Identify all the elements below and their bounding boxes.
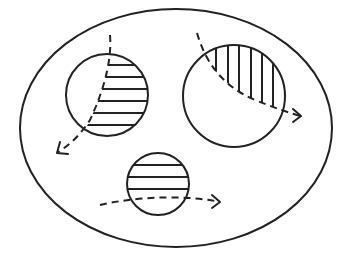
left-circle-group (57, 35, 150, 154)
left-arrowhead-icon (57, 142, 68, 154)
set-diagram (0, 0, 342, 255)
right-circle (183, 45, 285, 147)
bottom-circle (127, 153, 189, 215)
bottom-circle-group (100, 153, 220, 215)
diagram-canvas (0, 0, 342, 255)
left-horizontal-hatch (60, 65, 150, 125)
outer-ellipse (20, 9, 332, 247)
left-circle (66, 54, 148, 136)
right-circle-group (183, 30, 301, 150)
bottom-dashed-arrow (100, 197, 219, 205)
